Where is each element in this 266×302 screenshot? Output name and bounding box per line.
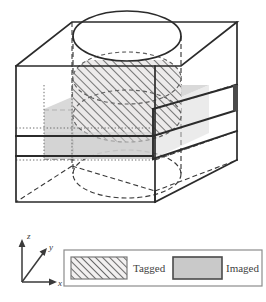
axis-z-label: z <box>26 231 31 241</box>
legend-swatch-tagged <box>71 257 127 279</box>
imaged-slab-end-cap <box>233 85 238 111</box>
legend-label-imaged: Imaged <box>226 262 259 274</box>
legend: Tagged Imaged <box>64 250 262 286</box>
axis-y-label: y <box>48 242 53 252</box>
legend-swatch-imaged <box>173 257 222 279</box>
figure-root: z y x Tagged Imaged <box>0 0 266 302</box>
legend-label-tagged: Tagged <box>133 262 166 274</box>
axis-x-label: x <box>57 278 62 288</box>
